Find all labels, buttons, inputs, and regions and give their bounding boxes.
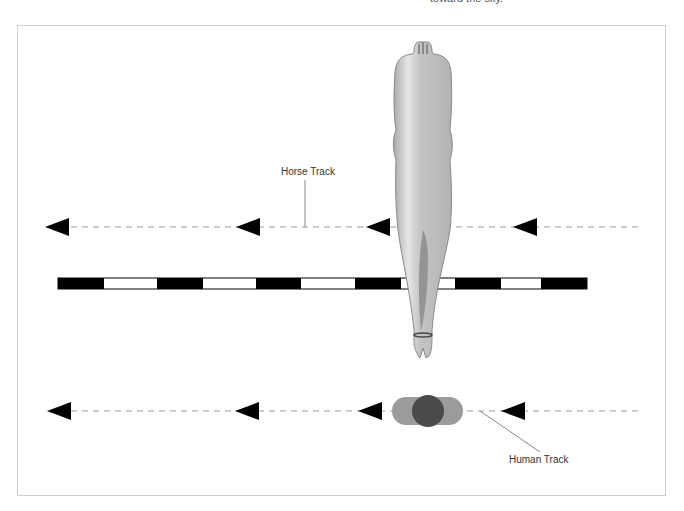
arrow-left-icon bbox=[366, 218, 390, 236]
arrow-left-icon bbox=[47, 402, 71, 420]
human-figure bbox=[392, 395, 463, 427]
scale-bar bbox=[58, 278, 587, 289]
arrow-left-icon bbox=[45, 218, 69, 236]
human-track-label: Human Track bbox=[509, 454, 568, 465]
horse-figure bbox=[393, 42, 452, 358]
arrow-left-icon bbox=[235, 402, 259, 420]
human-track-leader bbox=[480, 411, 540, 452]
horse-track-label: Horse Track bbox=[281, 166, 335, 177]
arrow-left-icon bbox=[513, 218, 537, 236]
gait-diagram bbox=[0, 0, 684, 511]
arrow-left-icon bbox=[236, 218, 260, 236]
arrow-left-icon bbox=[358, 402, 382, 420]
arrow-left-icon bbox=[501, 402, 525, 420]
